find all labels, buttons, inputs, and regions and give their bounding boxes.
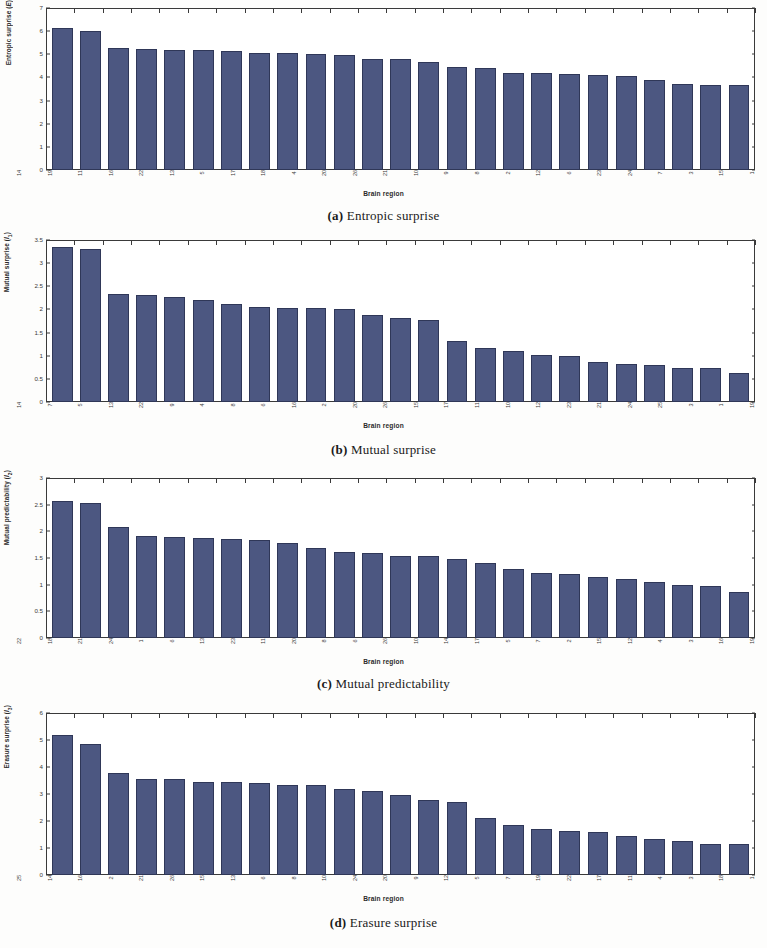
bar [362, 791, 383, 875]
bar-cell [612, 478, 640, 638]
bar [616, 836, 637, 875]
bar-cell [697, 713, 725, 875]
x-tick-label: 11 [628, 875, 634, 881]
bar-cell [133, 478, 161, 638]
panel-d-caption-tag: (d) [330, 915, 347, 930]
x-tick-label: 18 [48, 638, 54, 644]
figure-page: Entropic surprise (E) 01234567 141911162… [0, 0, 767, 948]
bar [700, 85, 721, 170]
bar-cell [330, 713, 358, 875]
x-tick-label-cell: 14 [429, 640, 460, 656]
x-tick-label-cell: 10 [307, 877, 338, 893]
x-tick-label: 25 [17, 875, 23, 881]
x-tick-label-cell: 6 [246, 404, 277, 420]
x-tick-label: 20 [292, 638, 298, 644]
x-tick-label: 9 [170, 403, 176, 406]
bar [136, 49, 157, 170]
x-tick-label: 4 [658, 639, 664, 642]
bar [334, 552, 355, 638]
bar [249, 53, 270, 170]
bar [306, 548, 327, 638]
bar [475, 348, 496, 402]
bar [306, 54, 327, 170]
bar [672, 368, 693, 402]
bar [52, 501, 73, 638]
bar [447, 802, 468, 875]
panel-a-caption: (a) Entropic surprise [0, 208, 767, 224]
panel-a-caption-text: Entropic surprise [343, 208, 439, 223]
panel-b-y-tick-label: 1.5 [21, 329, 43, 335]
bar-cell [471, 240, 499, 402]
panel-a-y-tick-label: 3 [21, 97, 43, 103]
bar-cell [584, 8, 612, 170]
x-tick-label: 11 [78, 170, 84, 176]
bar [503, 569, 524, 638]
bar-cell [302, 240, 330, 402]
x-tick-label: 15 [597, 638, 603, 644]
x-tick-label: 20 [353, 402, 359, 408]
bar [418, 320, 439, 402]
x-tick-label-cell: 18 [246, 172, 277, 188]
x-tick-label: 25 [658, 402, 664, 408]
bar-cell [48, 8, 76, 170]
bar-cell [245, 478, 273, 638]
bar [164, 50, 185, 170]
bar [221, 539, 242, 638]
x-tick-label: 24 [109, 638, 115, 644]
bar-cell [358, 8, 386, 170]
x-tick-label: 7 [506, 876, 512, 879]
bar-cell [133, 240, 161, 402]
x-tick-label: 15 [200, 875, 206, 881]
bar [672, 585, 693, 638]
bar-cell [104, 240, 132, 402]
bar [136, 295, 157, 402]
x-tick-label-cell: 22 [2, 640, 33, 656]
panel-c-y-tick-label: 3 [21, 475, 43, 481]
x-tick-label-cell: 15 [399, 404, 430, 420]
bar [588, 75, 609, 170]
x-tick-label-cell: 11 [63, 172, 94, 188]
panel-b-y-tick-label: 2 [21, 306, 43, 312]
x-tick-label: 20 [383, 875, 389, 881]
x-tick-label-cell: 22 [551, 877, 582, 893]
bar [729, 85, 750, 170]
x-tick-label-cell: 16 [277, 404, 308, 420]
x-tick-label-cell: 15 [185, 877, 216, 893]
panel-a-y-tick-label: 2 [21, 121, 43, 127]
x-tick-label-cell: 9 [429, 172, 460, 188]
bar-cell [697, 478, 725, 638]
x-tick-label-cell: 12 [521, 404, 552, 420]
x-tick-label: 24 [628, 170, 634, 176]
bar-cell [640, 478, 668, 638]
panel-c-y-tick-label: 1 [21, 582, 43, 588]
bar-cell [640, 8, 668, 170]
panel-d-y-tick-label: 2 [21, 818, 43, 824]
bar-cell [668, 478, 696, 638]
bar-cell [104, 713, 132, 875]
panel-a-x-tick-labels: 1419111622135171842026211098212623247315… [0, 172, 767, 188]
panel-c-x-tick-mark-top [755, 478, 756, 483]
x-tick-label-cell: 11 [460, 404, 491, 420]
bar [277, 543, 298, 638]
bar [52, 28, 73, 170]
bar-cell [133, 713, 161, 875]
x-tick-label: 17 [231, 170, 237, 176]
x-tick-label-cell: 8 [277, 877, 308, 893]
bar [164, 779, 185, 875]
bar-cell [330, 478, 358, 638]
bar-cell [217, 478, 245, 638]
x-tick-label: 21 [139, 875, 145, 881]
x-tick-label: 26 [170, 875, 176, 881]
panel-d-caption: (d) Erasure surprise [0, 915, 767, 931]
x-tick-label: 22 [139, 402, 145, 408]
x-tick-label-cell: 12 [521, 172, 552, 188]
bar [447, 67, 468, 170]
bar [80, 503, 101, 638]
bar [503, 825, 524, 875]
x-tick-label-cell: 7 [33, 404, 64, 420]
bar [475, 68, 496, 170]
x-tick-label: 5 [200, 171, 206, 174]
bar-cell [415, 713, 443, 875]
x-tick-label-cell: 10 [490, 404, 521, 420]
bar [249, 307, 270, 402]
